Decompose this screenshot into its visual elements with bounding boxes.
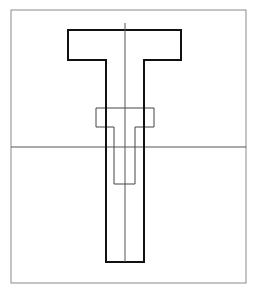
- t-shape-diagram: [0, 0, 257, 291]
